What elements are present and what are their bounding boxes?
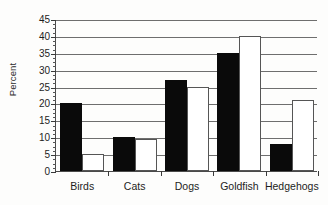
gridline (56, 71, 317, 72)
y-tick-major (51, 104, 56, 105)
y-tick-label: 30 (39, 66, 50, 76)
x-tick (108, 171, 109, 176)
x-tick (318, 171, 319, 176)
y-tick-label: 5 (44, 150, 50, 160)
y-tick-minor (53, 151, 56, 152)
y-tick-minor (53, 168, 56, 169)
bar-dogs-black (165, 80, 187, 171)
y-tick-label: 0 (44, 167, 50, 177)
x-tick (266, 171, 267, 176)
y-tick-minor (53, 33, 56, 34)
bar-cats-white (135, 139, 157, 171)
y-tick-minor (53, 109, 56, 110)
y-tick-minor (53, 96, 56, 97)
y-tick-minor (53, 58, 56, 59)
y-tick-minor (53, 50, 56, 51)
y-tick-minor (53, 79, 56, 80)
y-tick-minor (53, 126, 56, 127)
y-tick-label: 40 (39, 32, 50, 42)
bar-chart: Percent 051015202530354045 BirdsCatsDogs… (0, 0, 328, 205)
y-tick-major (51, 88, 56, 89)
y-tick-major (51, 20, 56, 21)
y-tick-minor (53, 117, 56, 118)
y-tick-minor (53, 134, 56, 135)
y-tick-label: 10 (39, 133, 50, 143)
y-tick-major (51, 54, 56, 55)
y-tick-major (51, 172, 56, 173)
bar-cats-black (113, 137, 135, 171)
y-tick-minor (53, 28, 56, 29)
x-tick-label-goldfish: Goldfish (220, 180, 259, 192)
gridline (56, 54, 317, 55)
y-tick-label: 20 (39, 99, 50, 109)
y-tick-minor (53, 164, 56, 165)
bar-dogs-white (187, 87, 209, 171)
y-tick-major (51, 155, 56, 156)
bar-birds-white (82, 154, 104, 171)
y-tick-label: 45 (39, 15, 50, 25)
y-tick-minor (53, 113, 56, 114)
y-tick-minor (53, 41, 56, 42)
y-tick-major (51, 71, 56, 72)
y-tick-minor (53, 147, 56, 148)
y-tick-label: 25 (39, 83, 50, 93)
gridline (56, 37, 317, 38)
y-tick-minor (53, 62, 56, 63)
x-tick-label-cats: Cats (124, 180, 146, 192)
y-tick-label: 35 (39, 49, 50, 59)
y-tick-major (51, 138, 56, 139)
x-tick (161, 171, 162, 176)
y-tick-minor (53, 130, 56, 131)
y-tick-minor (53, 159, 56, 160)
y-tick-major (51, 37, 56, 38)
plot-area: 051015202530354045 BirdsCatsDogsGoldfish… (55, 20, 317, 172)
x-tick-label-birds: Birds (70, 180, 94, 192)
bar-hedgehogs-black (270, 144, 292, 171)
bar-goldfish-white (239, 36, 261, 171)
y-tick-minor (53, 45, 56, 46)
bar-hedgehogs-white (292, 100, 314, 171)
y-axis-title: Percent (7, 50, 18, 110)
bar-goldfish-black (217, 53, 239, 171)
y-tick-label: 15 (39, 116, 50, 126)
x-tick (213, 171, 214, 176)
bar-birds-black (60, 103, 82, 171)
y-tick-major (51, 121, 56, 122)
y-tick-minor (53, 24, 56, 25)
gridline (56, 20, 317, 21)
y-tick-minor (53, 142, 56, 143)
y-tick-minor (53, 66, 56, 67)
y-tick-minor (53, 92, 56, 93)
x-tick-label-hedgehogs: Hedgehogs (265, 180, 319, 192)
y-tick-minor (53, 75, 56, 76)
y-tick-minor (53, 83, 56, 84)
x-tick-label-dogs: Dogs (175, 180, 200, 192)
y-tick-minor (53, 100, 56, 101)
